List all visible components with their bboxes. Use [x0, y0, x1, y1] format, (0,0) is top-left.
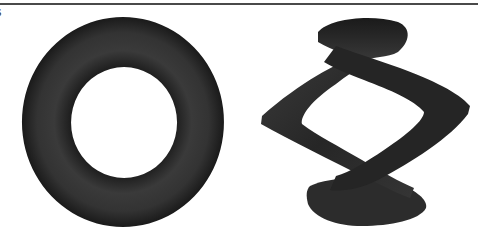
torus-figure [22, 17, 224, 227]
figure-panel [0, 0, 490, 241]
twisted-torus-figure [261, 18, 470, 226]
